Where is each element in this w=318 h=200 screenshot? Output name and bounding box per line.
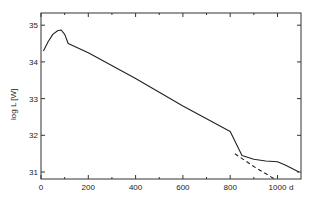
luminosity-chart: 02004006008001000 3132333435 d log L [W] [0,0,318,200]
x-tick-label: 600 [176,183,190,192]
y-tick-label: 32 [29,131,38,140]
x-tick-label: 200 [82,183,96,192]
y-axis-label: log L [W] [9,89,18,120]
x-tick-label: 1000 [269,183,287,192]
y-tick-label: 31 [29,168,38,177]
y-tick-label: 33 [29,95,38,104]
plot-frame [41,13,301,179]
x-tick-label: 800 [224,183,238,192]
solid-line [43,30,298,172]
x-tick-label: 400 [129,183,143,192]
data-series [43,30,298,179]
x-axis-ticks: 02004006008001000 [39,13,287,192]
x-axis-label: d [289,183,293,192]
x-tick-label: 0 [39,183,44,192]
dashed-extrapolation-line [235,154,275,180]
y-tick-label: 34 [29,58,38,67]
y-tick-label: 35 [29,21,38,30]
